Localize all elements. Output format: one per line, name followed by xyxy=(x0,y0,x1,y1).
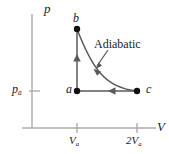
x-tick-label-Va: Va xyxy=(69,135,79,146)
arrow-c-to-a-icon xyxy=(108,87,116,94)
x-tick-label-2Va-base: 2V xyxy=(126,134,138,146)
adiabatic-annotation-label: Adiabatic xyxy=(94,38,141,50)
x-tick-label-2Va-sub: a xyxy=(138,140,141,147)
state-point-b xyxy=(74,26,80,32)
arrow-a-to-b-icon xyxy=(73,54,81,62)
x-tick-label-2Va: 2Va xyxy=(126,135,142,146)
adiabatic-leader-arrow-icon xyxy=(96,62,103,69)
y-tick-label-pa-sub: a xyxy=(18,88,22,97)
state-point-label-c: c xyxy=(146,83,151,95)
pv-diagram-canvas xyxy=(0,0,169,154)
adiabatic-leader-group xyxy=(96,50,109,69)
x-axis-label: V xyxy=(157,120,165,133)
state-point-label-b: b xyxy=(73,12,79,24)
state-point-label-a: a xyxy=(66,83,72,95)
pv-diagram-figure: p V pa Va 2Va a b c Adiabatic xyxy=(0,0,169,154)
y-axis-label: p xyxy=(44,2,51,15)
state-point-c xyxy=(134,88,140,94)
axes-group xyxy=(22,14,156,133)
x-tick-label-Va-sub: a xyxy=(76,140,79,147)
x-tick-label-Va-base: V xyxy=(69,134,76,146)
state-point-a xyxy=(74,88,80,94)
y-tick-label-pa: pa xyxy=(12,83,22,95)
